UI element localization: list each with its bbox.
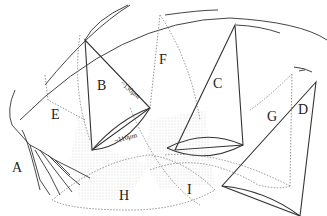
surface-arcs bbox=[20, 5, 327, 120]
label-G: G bbox=[267, 109, 277, 124]
measurement-cone-base: ~110μm bbox=[113, 131, 138, 145]
label-E: E bbox=[51, 107, 60, 122]
measurement-cone-height: ~130μm bbox=[119, 79, 143, 101]
label-C: C bbox=[213, 76, 222, 91]
label-H: H bbox=[119, 188, 129, 203]
label-B: B bbox=[97, 78, 106, 93]
diagram-canvas: A B C D E F G H I ~130μm ~110μm bbox=[0, 0, 327, 216]
label-D: D bbox=[298, 102, 308, 117]
label-A: A bbox=[12, 160, 23, 175]
label-F: F bbox=[159, 52, 167, 67]
label-I: I bbox=[187, 182, 192, 197]
stipple-regions bbox=[70, 110, 215, 200]
